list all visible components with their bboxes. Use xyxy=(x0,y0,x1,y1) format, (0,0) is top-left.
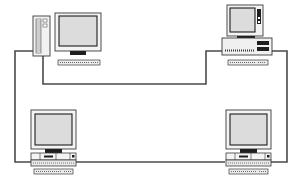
keyboard-icon xyxy=(228,60,268,65)
tower-case-icon xyxy=(33,16,50,56)
keyboard-icon xyxy=(34,169,73,174)
workstation-bottom-left xyxy=(31,110,76,174)
monitor-icon xyxy=(55,13,101,55)
workstation-top-right xyxy=(222,5,272,65)
monitor-icon xyxy=(226,110,271,153)
monitor-icon xyxy=(31,110,76,153)
network-diagram xyxy=(0,0,298,187)
keyboard-icon xyxy=(58,60,100,65)
desktop-case-icon xyxy=(222,38,272,55)
workstation-bottom-right xyxy=(226,110,271,174)
cable-top xyxy=(43,51,222,84)
desktop-case-icon xyxy=(31,153,76,166)
cable-left xyxy=(15,51,33,162)
monitor-icon xyxy=(227,5,263,38)
cable-right xyxy=(271,51,287,162)
keyboard-icon xyxy=(229,169,268,174)
desktop-case-icon xyxy=(226,153,271,166)
